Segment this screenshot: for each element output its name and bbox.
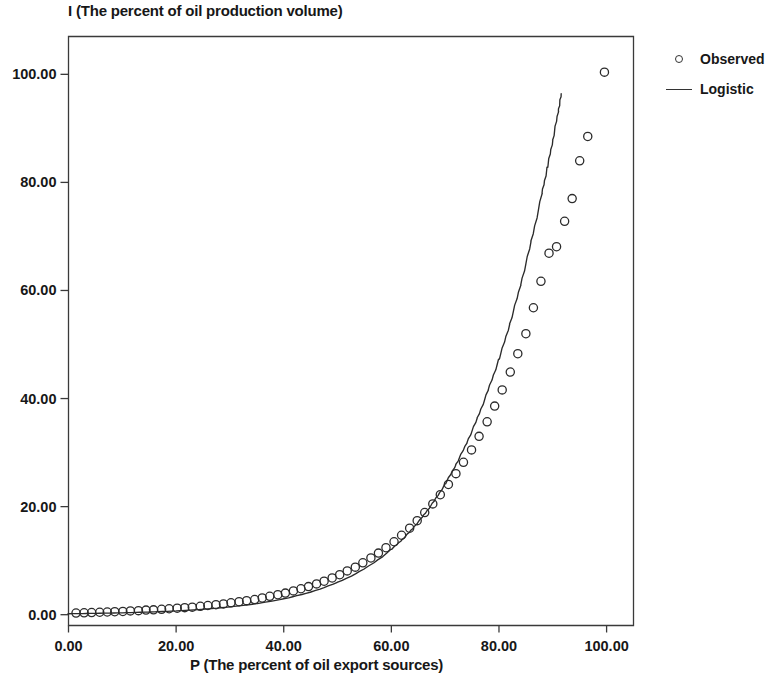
observed-points-series	[72, 68, 609, 617]
x-tick-label: 20.00	[158, 638, 194, 654]
axis-frame	[69, 37, 634, 626]
logistic-line	[68, 94, 561, 614]
plot-canvas: 0.0020.0040.0060.0080.00100.00 0.0020.00…	[0, 0, 771, 681]
open-circle-marker-icon	[662, 55, 696, 63]
y-tick-label: 100.00	[12, 66, 56, 82]
y-tick-label: 0.00	[28, 607, 56, 623]
observed-data-point	[475, 432, 483, 440]
observed-data-point	[374, 549, 382, 557]
y-tick-label: 40.00	[20, 391, 56, 407]
observed-data-point	[351, 563, 359, 571]
observed-data-point	[483, 418, 491, 426]
curve-estimation-chart: I (The percent of oil production volume)…	[0, 0, 771, 681]
observed-data-point	[568, 195, 576, 203]
y-tick-label: 20.00	[20, 499, 56, 515]
observed-data-point	[304, 582, 312, 590]
observed-data-point	[235, 598, 243, 606]
observed-data-point	[491, 402, 499, 410]
observed-data-point	[600, 68, 608, 76]
observed-data-point	[584, 132, 592, 140]
x-tick-label: 0.00	[54, 638, 82, 654]
observed-data-point	[243, 597, 251, 605]
observed-data-point	[320, 577, 328, 585]
observed-data-point	[421, 508, 429, 516]
y-tick-label: 60.00	[20, 282, 56, 298]
logistic-curve-series	[68, 94, 561, 614]
x-axis-ticks: 0.0020.0040.0060.0080.00100.00	[54, 626, 628, 654]
observed-data-point	[529, 304, 537, 312]
chart-legend: Observed Logistic	[662, 44, 765, 104]
legend-item-logistic: Logistic	[662, 74, 765, 104]
observed-data-point	[382, 544, 390, 552]
observed-data-point	[281, 589, 289, 597]
observed-data-point	[227, 599, 235, 607]
observed-data-point	[561, 217, 569, 225]
line-segment-icon	[662, 89, 696, 90]
observed-data-point	[258, 594, 266, 602]
x-axis-title: P (The percent of oil export sources)	[0, 656, 633, 673]
observed-data-point	[452, 470, 460, 478]
observed-data-point	[429, 500, 437, 508]
observed-data-point	[251, 595, 259, 603]
observed-data-point	[537, 277, 545, 285]
observed-data-point	[390, 538, 398, 546]
observed-data-point	[359, 559, 367, 567]
observed-data-point	[467, 446, 475, 454]
observed-data-point	[576, 157, 584, 165]
observed-data-point	[459, 458, 467, 466]
observed-data-point	[506, 368, 514, 376]
y-tick-label: 80.00	[20, 174, 56, 190]
observed-data-point	[367, 554, 375, 562]
legend-label-observed: Observed	[700, 51, 765, 67]
observed-data-point	[274, 591, 282, 599]
observed-data-point	[522, 330, 530, 338]
observed-data-point	[498, 386, 506, 394]
observed-data-point	[343, 567, 351, 575]
observed-data-point	[514, 350, 522, 358]
x-tick-label: 60.00	[373, 638, 409, 654]
y-axis-ticks: 0.0020.0040.0060.0080.00100.00	[12, 66, 68, 622]
observed-data-point	[545, 249, 553, 257]
x-tick-label: 100.00	[584, 638, 628, 654]
legend-item-observed: Observed	[662, 44, 765, 74]
legend-label-logistic: Logistic	[700, 81, 754, 97]
observed-data-point	[397, 531, 405, 539]
observed-data-point	[266, 592, 274, 600]
x-tick-label: 80.00	[481, 638, 517, 654]
x-tick-label: 40.00	[266, 638, 302, 654]
observed-data-point	[552, 243, 560, 251]
